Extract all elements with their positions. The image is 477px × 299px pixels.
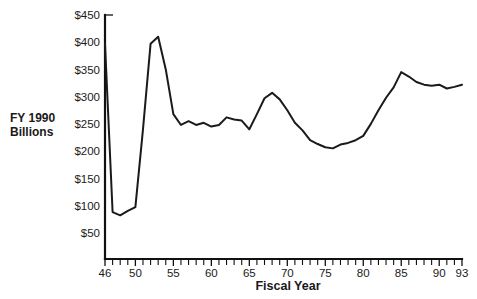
y-tick-label: $200 bbox=[74, 145, 100, 157]
x-tick-label: 80 bbox=[357, 267, 370, 279]
y-tick-label-group: $450$400$350$300$250$200$150$100$50 bbox=[74, 9, 100, 239]
y-tick-label: $100 bbox=[74, 200, 100, 212]
x-tick-label: 90 bbox=[433, 267, 446, 279]
y-tick-label: $450 bbox=[74, 9, 100, 21]
x-axis-title: Fiscal Year bbox=[255, 279, 320, 293]
y-tick-label: $250 bbox=[74, 118, 100, 130]
y-axis-title-line2: Billions bbox=[10, 125, 54, 139]
axis-titles: Fiscal Year FY 1990 Billions bbox=[10, 111, 321, 293]
y-tick-label: $150 bbox=[74, 173, 100, 185]
x-tick-label: 50 bbox=[129, 267, 142, 279]
x-tick-label: 85 bbox=[395, 267, 408, 279]
line-chart: $450$400$350$300$250$200$150$100$50 4650… bbox=[0, 0, 477, 299]
y-axis-title-line1: FY 1990 bbox=[10, 111, 55, 125]
y-tick-label: $50 bbox=[81, 227, 100, 239]
y-tick-label: $350 bbox=[74, 64, 100, 76]
chart-container: $450$400$350$300$250$200$150$100$50 4650… bbox=[0, 0, 477, 299]
x-tick-label: 93 bbox=[456, 267, 469, 279]
x-tick-label-group: 4650556065707580859093 bbox=[99, 267, 469, 279]
y-axis-group: $450$400$350$300$250$200$150$100$50 bbox=[74, 9, 113, 259]
x-axis-group: 4650556065707580859093 bbox=[99, 259, 469, 279]
x-tick-label: 70 bbox=[281, 267, 294, 279]
x-tick-label: 46 bbox=[99, 267, 112, 279]
data-line-defense-outlays bbox=[105, 37, 462, 216]
data-series-group bbox=[105, 37, 462, 216]
x-tick-label: 60 bbox=[205, 267, 218, 279]
x-tick-label: 75 bbox=[319, 267, 332, 279]
y-tick-label: $300 bbox=[74, 91, 100, 103]
y-tick-label: $400 bbox=[74, 36, 100, 48]
x-tick-label: 65 bbox=[243, 267, 256, 279]
x-tick-label: 55 bbox=[167, 267, 180, 279]
